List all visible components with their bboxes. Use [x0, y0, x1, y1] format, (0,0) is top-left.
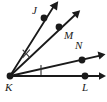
point-J-dot [41, 15, 48, 22]
point-label-J: J [32, 5, 37, 16]
ray-KL-arrowhead [99, 72, 106, 80]
point-label-K: K [5, 82, 12, 93]
point-label-L: L [82, 82, 88, 93]
diagram-canvas [0, 0, 107, 102]
geometry-diagram: J M N L K [0, 0, 107, 102]
point-K-dot [7, 73, 14, 80]
ray-KN-arrowhead [98, 52, 106, 60]
point-label-N: N [75, 40, 82, 51]
point-M-dot [56, 24, 63, 31]
point-N-dot [79, 57, 86, 64]
point-L-dot [82, 73, 89, 80]
point-label-M: M [64, 30, 73, 41]
ray-KJ-arrowhead [50, 1, 59, 10]
